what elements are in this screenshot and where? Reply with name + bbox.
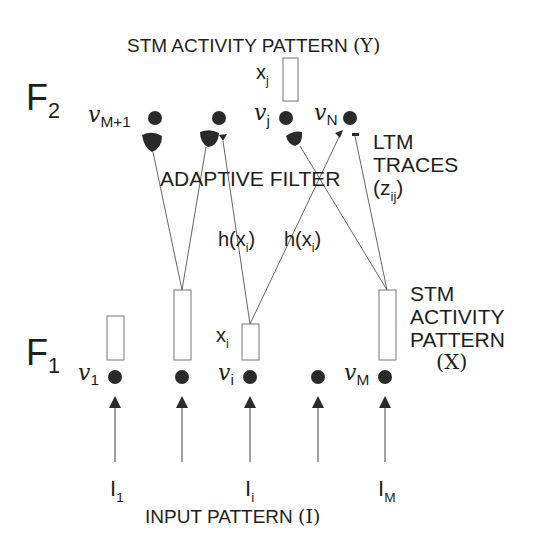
f1-title-line-3: PATTERN xyxy=(410,328,505,351)
f1-node-2-icon xyxy=(175,370,189,384)
layer-f1-label: F1 xyxy=(26,335,60,376)
f1-node-label-m-sub: M xyxy=(356,371,369,388)
signal-label-1-text: h(x xyxy=(218,228,246,250)
ltm-line-1: LTM xyxy=(373,130,458,153)
f1-activity-var: x xyxy=(216,324,226,346)
f2-node-j-icon xyxy=(279,111,293,125)
input-label-1: I1 xyxy=(110,478,124,505)
f2-node-label-m1-var: v xyxy=(88,102,100,127)
f1-activity-boxes xyxy=(107,290,396,360)
f2-pattern-symbol: (Y) xyxy=(353,34,380,56)
f2-node-label-j-var: v xyxy=(254,100,266,125)
f1-box-2 xyxy=(174,290,191,360)
layer-f1-sub: 1 xyxy=(48,353,60,378)
input-label-m: IM xyxy=(378,478,395,505)
f2-pattern-title-text: STM ACTIVITY PATTERN xyxy=(127,35,348,56)
signal-label-2-text: h(x xyxy=(284,228,312,250)
f1-node-label-1: v1 xyxy=(78,362,99,387)
layer-f2-label: F2 xyxy=(26,80,60,121)
f1-node-label-1-sub: 1 xyxy=(90,371,99,388)
diagram-graphics xyxy=(0,0,538,552)
layer-f2-sub: 2 xyxy=(48,98,60,123)
f1-node-label-m-var: v xyxy=(344,360,356,385)
f1-activity-sub: i xyxy=(226,337,229,351)
f2-node-n-icon xyxy=(343,111,357,125)
f2-node-2-icon xyxy=(212,111,226,125)
f2-node-label-n-var: v xyxy=(314,100,326,125)
adaptive-filter-pathways xyxy=(153,136,387,324)
f1-node-label-i-sub: i xyxy=(230,371,233,388)
f1-title-line-1: STM xyxy=(410,282,505,305)
f1-node-label-1-var: v xyxy=(78,360,90,385)
f2-node-label-m1: vM+1 xyxy=(88,104,131,129)
input-pattern-title: INPUT PATTERN (I) xyxy=(145,507,320,526)
input-arrow-i-icon xyxy=(244,396,256,462)
f2-node-label-j-sub: j xyxy=(266,112,269,129)
ltm-line-2: TRACES xyxy=(373,153,458,176)
f2-activity-sub: j xyxy=(266,74,269,88)
f2-node-label-n: vN xyxy=(314,102,338,127)
ltm-knob-6-icon xyxy=(352,133,359,136)
f1-pattern-title: STM ACTIVITY PATTERN (X) xyxy=(410,282,505,374)
f1-node-label-i-var: v xyxy=(218,360,230,385)
f2-activity-var: x xyxy=(256,61,266,83)
input-label-1-sub: 1 xyxy=(116,490,124,505)
ltm-trace-knobs xyxy=(142,130,359,152)
input-pattern-symbol: (I) xyxy=(298,505,320,527)
input-arrow-1-icon xyxy=(109,396,121,462)
f1-node-label-m: vM xyxy=(344,362,369,387)
input-label-i: Ii xyxy=(245,478,254,505)
f1-activity-label: xi xyxy=(216,325,229,350)
input-arrow-2-icon xyxy=(176,396,188,462)
ltm-knob-1-icon xyxy=(142,133,162,152)
signal-label-1-close: ) xyxy=(249,228,256,250)
f2-activity-box xyxy=(283,58,298,101)
f2-node-label-j: vj xyxy=(254,102,270,129)
signal-label-2: h(xi) xyxy=(284,229,321,254)
ltm-knob-5-icon xyxy=(335,130,343,138)
signal-label-1: h(xi) xyxy=(218,229,255,254)
f1-node-m-icon xyxy=(378,370,392,384)
art-network-diagram: STM ACTIVITY PATTERN (Y) xj F2 vM+1 vj v… xyxy=(0,0,538,552)
input-arrow-m-icon xyxy=(379,396,391,462)
ltm-traces-label: LTM TRACES (zij) xyxy=(373,130,458,208)
f1-node-1-icon xyxy=(108,370,122,384)
f1-node-i-icon xyxy=(243,370,257,384)
f1-title-line-2: ACTIVITY xyxy=(410,305,505,328)
input-pattern-title-text: INPUT PATTERN xyxy=(145,506,293,527)
ltm-knob-4-icon xyxy=(286,132,302,147)
layer-f1-name: F xyxy=(26,332,48,373)
input-label-m-sub: M xyxy=(384,490,395,505)
ltm-knob-2-icon xyxy=(200,130,219,147)
f1-node-label-i: vi xyxy=(218,362,234,387)
f2-node-label-n-sub: N xyxy=(326,111,337,128)
signal-label-2-close: ) xyxy=(315,228,322,250)
f1-node-4-icon xyxy=(311,370,325,384)
ltm-symbol-open: (z xyxy=(373,176,391,199)
ltm-symbol-close: ) xyxy=(396,176,403,199)
f1-box-i xyxy=(242,324,259,360)
input-arrows xyxy=(109,396,391,462)
f2-node-label-m1-sub: M+1 xyxy=(100,113,130,130)
ltm-knob-3-icon xyxy=(219,134,227,141)
layer-f2-name: F xyxy=(26,77,48,118)
ltm-symbol: (zij) xyxy=(373,176,458,208)
input-label-i-sub: i xyxy=(251,490,254,505)
input-arrow-4-icon xyxy=(312,396,324,462)
f1-box-m xyxy=(379,290,396,360)
f2-node-m1-icon xyxy=(148,111,162,125)
f1-pattern-symbol: (X) xyxy=(410,351,505,374)
f2-pattern-title: STM ACTIVITY PATTERN (Y) xyxy=(127,36,380,55)
f1-box-1 xyxy=(107,316,124,360)
adaptive-filter-label: ADAPTIVE FILTER xyxy=(160,168,340,189)
f2-activity-label: xj xyxy=(256,62,269,87)
